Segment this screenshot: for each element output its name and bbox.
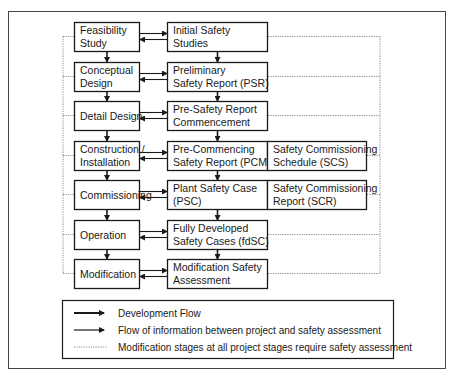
- project-stage-box: Construction /Installation: [75, 142, 145, 171]
- safety-stage-box-label: Pre-Commencing: [173, 143, 255, 155]
- legend-label-information-flow: Flow of information between project and …: [118, 325, 381, 336]
- project-stage-box: Operation: [75, 221, 140, 250]
- commissioning-doc-box-label: Report (SCR): [273, 195, 337, 207]
- commissioning-doc-box: Safety CommissioningSchedule (SCS): [268, 142, 378, 171]
- legend-label-development-flow: Development Flow: [118, 308, 202, 319]
- safety-stage-box-label: Plant Safety Case: [173, 182, 257, 194]
- project-stage-box-label: Conceptual: [80, 64, 133, 76]
- project-stage-box-label: Detail Design: [80, 110, 143, 122]
- safety-stage-box-label: (PSC): [173, 195, 202, 207]
- safety-stage-box-label: Commencement: [173, 116, 250, 128]
- safety-stage-box: Fully DevelopedSafety Cases (fdSC): [168, 221, 269, 250]
- project-stage-box: Modification: [75, 260, 140, 289]
- project-stage-box: ConceptualDesign: [75, 63, 140, 92]
- safety-stage-box-label: Preliminary: [173, 64, 226, 76]
- safety-stage-box: Modification SafetyAssessment: [168, 260, 268, 289]
- safety-stage-box-label: Initial Safety: [173, 24, 231, 36]
- project-stage-box: Detail Design: [75, 102, 143, 131]
- safety-stage-box-label: Studies: [173, 37, 208, 49]
- commissioning-doc-box: Safety CommissioningReport (SCR): [268, 181, 378, 210]
- safety-stage-box-label: Pre-Safety Report: [173, 103, 257, 115]
- commissioning-doc-box-label: Safety Commissioning: [273, 143, 378, 155]
- project-stage-box: Commissioning: [75, 181, 152, 210]
- safety-stage-box: Plant Safety Case(PSC): [168, 181, 268, 210]
- project-stage-box-label: Study: [80, 37, 108, 49]
- safety-stage-box-label: Assessment: [173, 274, 230, 286]
- safety-stage-box-label: Modification Safety: [173, 261, 262, 273]
- safety-stage-box: Pre-Safety ReportCommencement: [168, 102, 268, 131]
- project-stage-box-label: Commissioning: [80, 189, 152, 201]
- project-stage-box: FeasibilityStudy: [75, 23, 140, 52]
- safety-stage-box: PreliminarySafety Report (PSR): [168, 63, 269, 92]
- commissioning-doc-box-label: Schedule (SCS): [273, 156, 348, 168]
- project-stage-box-label: Design: [80, 77, 113, 89]
- project-stage-box-label: Installation: [80, 156, 130, 168]
- project-stage-box-label: Construction /: [80, 143, 145, 155]
- project-stage-box-label: Modification: [80, 268, 136, 280]
- safety-stage-box-label: Fully Developed: [173, 222, 248, 234]
- safety-stage-box-label: Safety Cases (fdSC): [173, 235, 269, 247]
- commissioning-doc-box-label: Safety Commissioning: [273, 182, 378, 194]
- safety-stage-box: Initial SafetyStudies: [168, 23, 268, 52]
- safety-stage-box-label: Safety Report (PSR): [173, 77, 269, 89]
- legend-label-modification-stages: Modification stages at all project stage…: [118, 342, 412, 353]
- project-stage-box-label: Operation: [80, 229, 126, 241]
- stage-box-group: FeasibilityStudyConceptualDesignDetail D…: [75, 23, 378, 289]
- legend: Development Flow Flow of information bet…: [63, 301, 413, 359]
- project-stage-box-label: Feasibility: [80, 24, 127, 36]
- safety-assessment-flow-diagram: FeasibilityStudyConceptualDesignDetail D…: [0, 0, 454, 376]
